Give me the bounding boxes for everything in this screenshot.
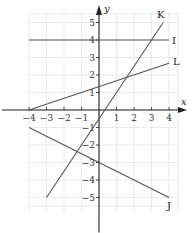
line-label-I: I <box>172 35 176 46</box>
x-axis-label: x <box>181 96 187 107</box>
x-tick-label: −3 <box>40 113 54 123</box>
x-tick-label: −4 <box>22 113 36 123</box>
x-tick-label: 3 <box>149 113 155 123</box>
x-axis-arrow-icon <box>178 107 187 113</box>
line-label-K: K <box>157 9 165 20</box>
y-axis-arrow-icon <box>96 5 102 15</box>
x-tick-label: −1 <box>75 113 88 123</box>
line-label-J: J <box>166 200 171 211</box>
y-axis-label: y <box>103 3 110 14</box>
x-tick-label: 1 <box>114 113 120 123</box>
x-tick-label: 4 <box>166 113 172 123</box>
y-tick-label: 5 <box>89 18 95 28</box>
y-tick-label: −4 <box>82 175 96 185</box>
line-label-L: L <box>173 56 180 67</box>
x-tick-label: 2 <box>131 113 137 123</box>
y-tick-label: 3 <box>89 53 95 63</box>
y-tick-label: −5 <box>82 193 96 203</box>
coordinate-plane-chart: xy −4−3−2−11234−5−4−3−2−112345 IKLJ <box>0 0 193 233</box>
x-tick-label: −2 <box>57 113 70 123</box>
y-tick-label: 2 <box>89 70 95 80</box>
